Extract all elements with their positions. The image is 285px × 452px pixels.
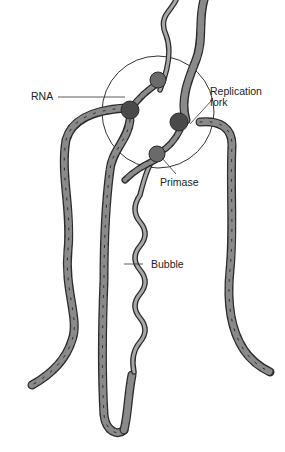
right-outer-duplex (200, 122, 270, 372)
label-bubble: Bubble (151, 259, 184, 270)
replication-fork-enzyme (170, 113, 188, 131)
primase-enzyme (149, 146, 165, 162)
rna-primer-enzyme (121, 101, 139, 119)
dna-replication-diagram: RNA Replication fork Primase Bubble (0, 0, 285, 452)
label-primase: Primase (160, 177, 199, 188)
diagram-artwork (0, 0, 285, 452)
left-outer-duplex (32, 108, 125, 385)
primase-enzyme-top (150, 72, 166, 88)
top-right-duplex (184, 0, 204, 120)
bottom-right-duplex (124, 375, 132, 430)
label-replication-fork-line2: fork (210, 97, 228, 108)
label-rna: RNA (31, 91, 53, 102)
